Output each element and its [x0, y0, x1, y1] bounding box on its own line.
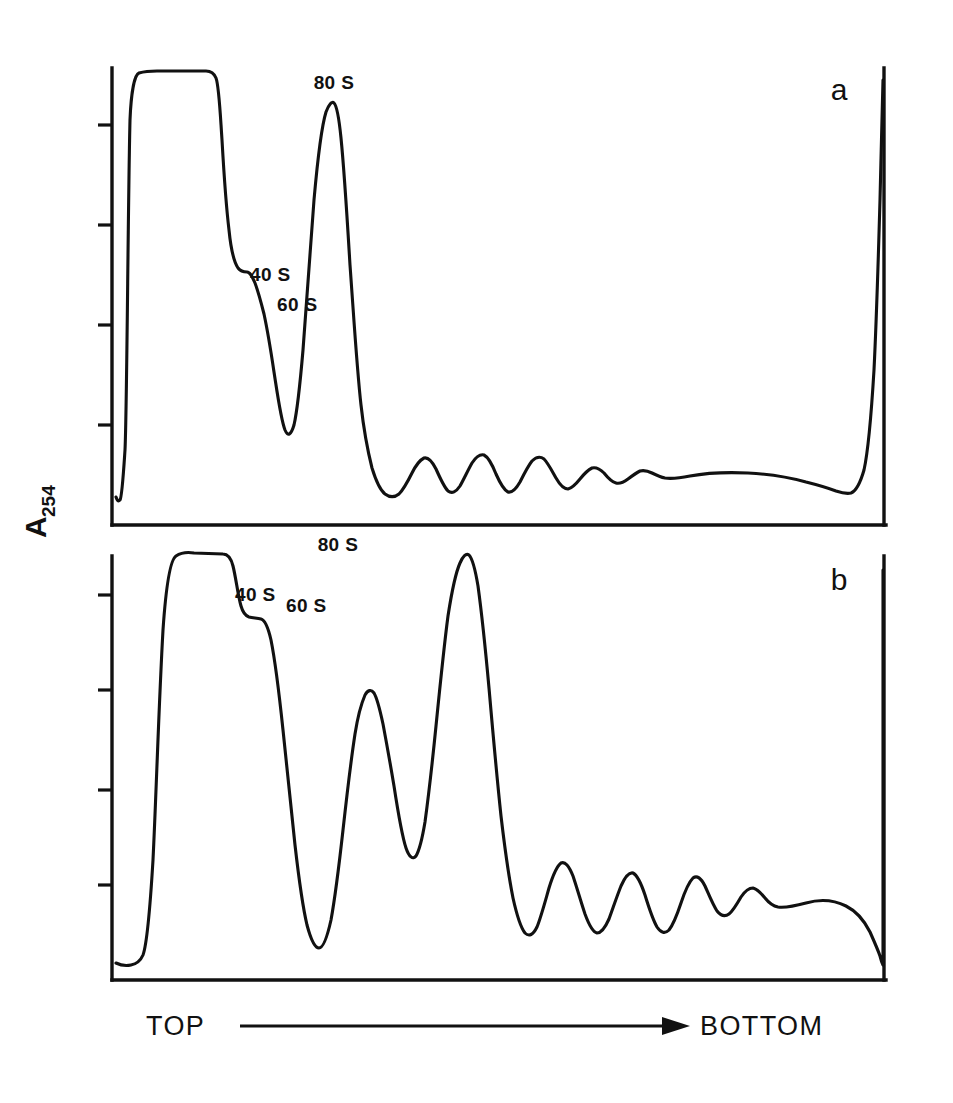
x-axis-direction-group: TOP BOTTOM	[146, 1011, 823, 1041]
y-axis-label-group: A 254	[19, 485, 59, 538]
x-axis-label-bottom: BOTTOM	[700, 1011, 823, 1041]
y-axis-label-main: A	[19, 516, 52, 538]
direction-arrow-head-icon	[662, 1017, 690, 1035]
panel-b-trace	[116, 552, 883, 965]
panel-a: a 40 S 60 S 80 S	[98, 68, 886, 525]
figure-root: a 40 S 60 S 80 S b 40 S 60 S	[0, 0, 953, 1103]
panel-a-peak-label-40s: 40 S	[250, 264, 291, 285]
panel-a-peak-label-80s: 80 S	[314, 72, 355, 93]
panel-a-label: a	[831, 73, 848, 106]
polysome-profile-figure: a 40 S 60 S 80 S b 40 S 60 S	[0, 0, 953, 1103]
panel-a-trace	[116, 71, 883, 501]
panel-b-label: b	[831, 563, 848, 596]
y-axis-label-subscript: 254	[38, 485, 59, 517]
panel-b-peak-label-80s: 80 S	[318, 534, 359, 555]
panel-b-peak-label-60s: 60 S	[286, 595, 327, 616]
panel-b-peak-label-40s: 40 S	[235, 584, 276, 605]
panel-b: b 40 S 60 S 80 S	[98, 534, 886, 980]
panel-a-peak-label-60s: 60 S	[277, 294, 318, 315]
x-axis-label-top: TOP	[146, 1011, 205, 1041]
